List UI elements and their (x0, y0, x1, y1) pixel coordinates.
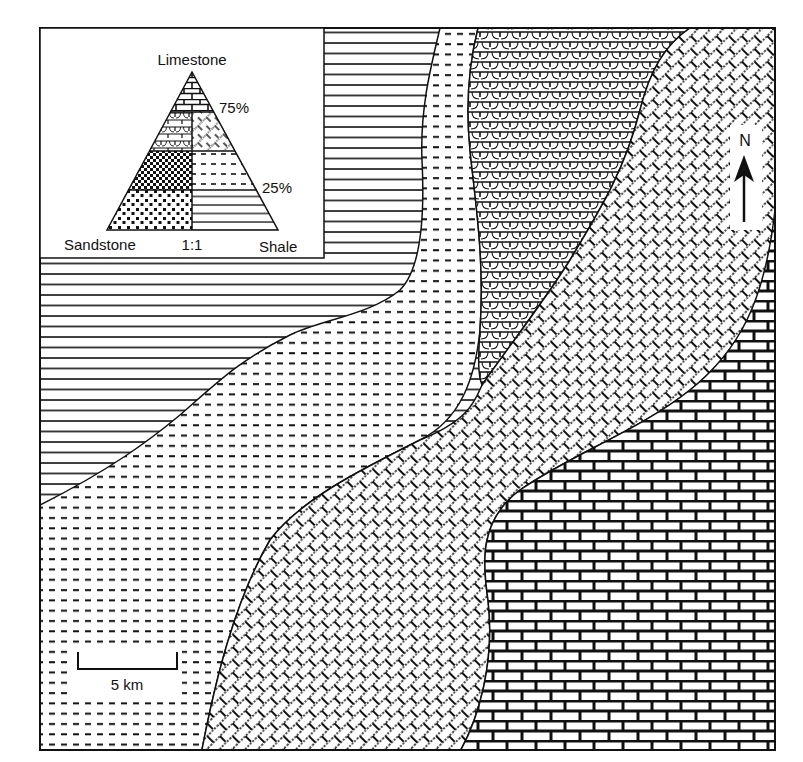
legend-label-shale: Shale (259, 238, 297, 255)
legend-inset: Limestone 75% 25% Sandstone 1:1 Shale (40, 28, 324, 258)
legend-label-sandstone: Sandstone (64, 236, 136, 253)
legend-label-ratio: 1:1 (182, 236, 203, 253)
legend-label-25: 25% (262, 179, 292, 196)
legend-label-75: 75% (219, 99, 249, 116)
scale-bar-label: 5 km (111, 676, 144, 693)
north-arrow: N (730, 125, 762, 230)
scale-bar: 5 km (70, 648, 182, 698)
lithofacies-map: Limestone 75% 25% Sandstone 1:1 Shale N … (0, 0, 803, 762)
north-label: N (739, 132, 751, 149)
legend-label-limestone: Limestone (157, 51, 226, 68)
